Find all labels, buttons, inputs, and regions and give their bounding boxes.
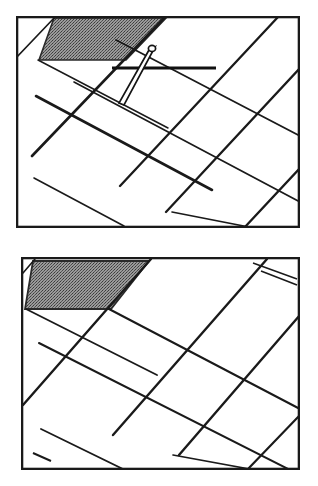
- lower-figure-panel: [21, 257, 300, 470]
- figure-sheet: [0, 0, 318, 486]
- upper-figure-panel: [16, 16, 300, 228]
- upper-panel-drawing: [16, 16, 300, 228]
- lower-panel-drawing: [21, 257, 300, 470]
